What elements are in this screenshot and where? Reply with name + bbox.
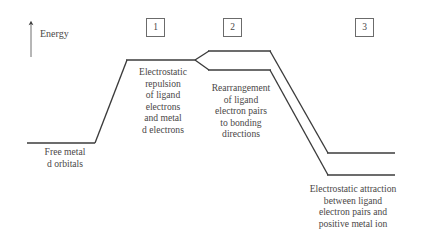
caption-step-1-electrostatic-repulsion: Electrostatic repulsion of ligand electr… (119, 66, 207, 136)
step-marker-1: 1 (146, 18, 165, 37)
step-marker-3: 3 (355, 18, 374, 37)
energy-diagram-page: Energy 1 2 3 Free metal d orbitals Elect… (0, 0, 440, 251)
caption-step-2-rearrangement: Rearrangement of ligand electron pairs t… (196, 82, 286, 140)
caption-free-metal-d-orbitals: Free metal d orbitals (22, 146, 108, 169)
connector-fork-upper (195, 51, 209, 60)
step-marker-2: 2 (223, 18, 242, 37)
caption-step-3-electrostatic-attraction: Electrostatic attraction between ligand … (278, 183, 428, 229)
energy-axis-label: Energy (40, 28, 69, 40)
